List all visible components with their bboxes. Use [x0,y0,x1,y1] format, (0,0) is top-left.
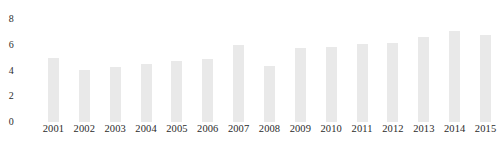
x-tick-label: 2008 [259,124,280,135]
x-tick-label: 2013 [413,124,434,135]
bar [48,58,59,122]
y-tick-label-2: 2 [9,91,14,101]
x-tick-label: 2002 [74,124,95,135]
bar [295,48,306,122]
y-tick-label-6: 6 [9,40,14,50]
bar [141,64,152,122]
bar [480,35,491,122]
x-tick-label: 2004 [135,124,156,135]
y-axis: 8 6 4 2 0 [0,0,38,162]
bar [418,37,429,122]
x-tick-label: 2010 [321,124,342,135]
bar [110,67,121,122]
y-tick-label-8: 8 [9,14,14,24]
x-tick-label: 2014 [444,124,465,135]
bar [233,45,244,122]
bar [202,59,213,122]
y-tick-label-4: 4 [9,66,14,76]
x-tick-label: 2007 [228,124,249,135]
y-tick-label-0: 0 [9,117,14,127]
x-tick-label: 2009 [290,124,311,135]
x-axis: 2001200220032004200520062007200820092010… [38,122,501,162]
x-tick-label: 2006 [197,124,218,135]
x-tick-label: 2003 [104,124,125,135]
x-tick-label: 2005 [166,124,187,135]
x-tick-label: 2011 [352,124,373,135]
bar [357,44,368,122]
bar [326,47,337,122]
x-tick-label: 2001 [43,124,64,135]
bar [449,31,460,122]
bar [171,61,182,122]
bar [264,66,275,122]
x-tick-label: 2015 [475,124,496,135]
bar-chart: 8 6 4 2 0 200120022003200420052006200720… [0,0,501,162]
bar [79,70,90,122]
bar [387,43,398,122]
x-tick-label: 2012 [382,124,403,135]
